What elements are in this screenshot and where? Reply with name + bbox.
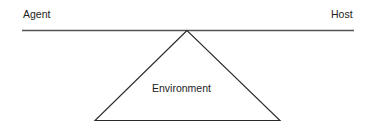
fulcrum-triangle bbox=[95, 31, 280, 121]
agent-label: Agent bbox=[23, 8, 50, 20]
diagram-canvas bbox=[0, 0, 370, 124]
host-label: Host bbox=[331, 8, 353, 20]
environment-label: Environment bbox=[152, 82, 211, 94]
